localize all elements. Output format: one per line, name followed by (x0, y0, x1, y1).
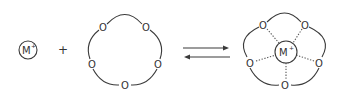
oxygen-atom: O (259, 20, 267, 31)
oxygen-atom: O (142, 22, 150, 33)
crown-ether-free: O O O O O (88, 15, 162, 92)
equilibrium-arrows (183, 46, 230, 60)
forward-arrow-head-icon (223, 46, 229, 51)
crown-ether-equilibrium-diagram: M + + O O O O O M + (0, 0, 344, 100)
oxygen-atom: O (121, 80, 129, 91)
ring-arc-top (267, 13, 301, 22)
coordination-bond (296, 55, 314, 61)
coordination-bond (256, 55, 276, 61)
complex-cation-symbol: M (279, 47, 288, 58)
ring-arc-right (150, 30, 162, 59)
ring-arc-right (309, 27, 325, 57)
coordination-bond (267, 29, 279, 43)
coordination-bond (293, 29, 302, 43)
ring-arc-top (107, 15, 142, 25)
cation-charge: + (31, 42, 36, 49)
oxygen-atom: O (99, 22, 107, 33)
oxygen-atom: O (88, 59, 96, 70)
ring-arc-bottom-left (93, 69, 119, 85)
reverse-arrow-head-icon (184, 55, 190, 60)
ring-arc-bottom-right (131, 69, 157, 85)
plus-operator: + (58, 43, 68, 57)
ring-arc-bottom-left (250, 68, 279, 85)
free-cation: M + (19, 41, 37, 59)
ring-arc-bottom-right (291, 68, 319, 85)
crown-ether-complex: M + O O O O O (243, 13, 325, 91)
oxygen-atom: O (315, 58, 323, 69)
oxygen-atom: O (281, 80, 289, 91)
oxygen-atom: O (246, 58, 254, 69)
complex-cation-charge: + (289, 44, 294, 51)
ring-arc-left (243, 27, 259, 57)
cation-symbol: M (22, 45, 31, 56)
ring-arc-left (88, 30, 99, 59)
oxygen-atom: O (301, 20, 309, 31)
oxygen-atom: O (154, 59, 162, 70)
